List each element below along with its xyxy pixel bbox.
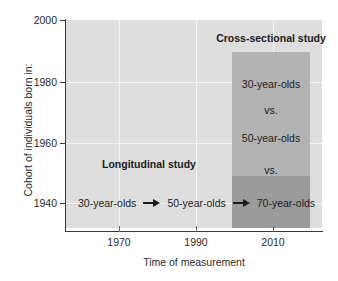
arrow-right-icon xyxy=(143,199,160,208)
x-tick-label-1990: 1990 xyxy=(184,236,207,248)
y-tick-label-2000: 2000 xyxy=(34,14,57,26)
x-tick-2010 xyxy=(273,226,274,232)
y-tick-1960 xyxy=(60,143,66,144)
x-tick-label-1970: 1970 xyxy=(107,236,130,248)
cross-sectional-vs-1: vs. xyxy=(264,104,277,116)
y-tick-1980 xyxy=(60,82,66,83)
x-axis-title: Time of measurement xyxy=(66,256,322,268)
x-tick-1970 xyxy=(119,226,120,232)
flow-item-70-year-olds: 70-year-olds xyxy=(257,197,315,209)
arrow-right-icon xyxy=(233,199,250,208)
cross-sectional-study-title: Cross-sectional study xyxy=(216,32,326,44)
x-tick-label-2010: 2010 xyxy=(261,236,284,248)
y-axis-title: Cohort of individuals born in: xyxy=(22,20,34,240)
longitudinal-flow-row: 30-year-olds 50-year-olds 70-year-olds xyxy=(78,197,315,209)
y-tick-label-1980: 1980 xyxy=(34,76,57,88)
study-design-diagram: 2000 1980 1960 1940 1970 1990 2010 Cohor… xyxy=(0,0,338,281)
y-tick-1940 xyxy=(60,203,66,204)
cross-sectional-item-30: 30-year-olds xyxy=(242,78,300,90)
longitudinal-study-title: Longitudinal study xyxy=(102,158,196,170)
flow-item-50-year-olds: 50-year-olds xyxy=(167,197,225,209)
x-axis-line xyxy=(65,231,323,232)
y-tick-2000 xyxy=(60,20,66,21)
cross-sectional-item-50: 50-year-olds xyxy=(242,132,300,144)
cross-sectional-vs-2: vs. xyxy=(264,164,277,176)
flow-item-30-year-olds: 30-year-olds xyxy=(78,197,136,209)
y-tick-label-1960: 1960 xyxy=(34,137,57,149)
y-tick-label-1940: 1940 xyxy=(34,197,57,209)
x-tick-1990 xyxy=(196,226,197,232)
y-axis-line xyxy=(65,19,66,232)
